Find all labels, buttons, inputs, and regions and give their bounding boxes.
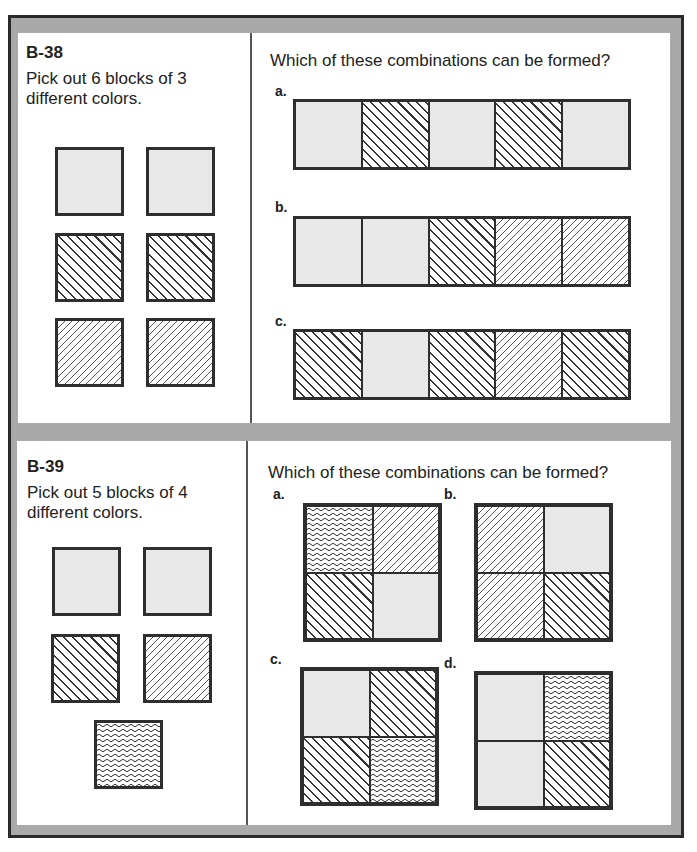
block-dot[interactable] — [146, 318, 215, 387]
option-label: a. — [273, 486, 285, 502]
cell-stripe — [361, 102, 428, 167]
cell-gray — [561, 102, 628, 167]
option-a-grid[interactable] — [303, 503, 442, 642]
question-text: Which of these combinations can be forme… — [270, 51, 610, 71]
instruction-line: Pick out 6 blocks of 3 — [26, 69, 187, 89]
block-dot[interactable] — [55, 318, 124, 387]
instruction-line: Pick out 5 blocks of 4 — [27, 483, 188, 503]
block-stripe[interactable] — [146, 233, 215, 302]
problem-instruction: Pick out 5 blocks of 4 different colors. — [27, 483, 188, 523]
block-gray[interactable] — [146, 147, 215, 216]
block-dot[interactable] — [143, 634, 212, 703]
option-label: a. — [275, 83, 287, 99]
cell-stripe — [544, 741, 611, 808]
option-b-strip[interactable] — [293, 216, 631, 287]
block-stripe[interactable] — [55, 233, 124, 302]
block-gray[interactable] — [52, 547, 121, 616]
cell-stripe — [494, 102, 561, 167]
cell-wave — [544, 674, 611, 741]
instruction-line: different colors. — [26, 89, 187, 109]
option-c-strip[interactable] — [293, 329, 631, 400]
problem-instruction: Pick out 6 blocks of 3 different colors. — [26, 69, 187, 109]
cell-gray — [428, 102, 495, 167]
cell-gray — [303, 670, 370, 737]
question-text: Which of these combinations can be forme… — [268, 463, 608, 483]
cell-gray — [361, 219, 428, 284]
option-a-strip[interactable] — [293, 99, 631, 170]
cell-dot — [477, 506, 544, 573]
cell-gray — [296, 102, 361, 167]
block-stripe[interactable] — [51, 634, 120, 703]
cell-stripe — [296, 332, 361, 397]
problem-b38-panel: B-38 Pick out 6 blocks of 3 different co… — [18, 33, 670, 423]
option-label: b. — [275, 199, 287, 215]
cell-gray — [544, 506, 611, 573]
cell-gray — [373, 573, 440, 640]
cell-wave — [370, 737, 437, 804]
column-divider — [250, 33, 252, 423]
cell-stripe — [544, 573, 611, 640]
cell-gray — [296, 219, 361, 284]
problem-title: B-38 — [26, 43, 63, 63]
option-d-grid[interactable] — [474, 671, 613, 810]
option-label: b. — [444, 486, 456, 502]
cell-gray — [361, 332, 428, 397]
block-wave[interactable] — [94, 720, 163, 789]
cell-stripe — [306, 573, 373, 640]
option-b-grid[interactable] — [474, 503, 613, 642]
cell-dot — [494, 332, 561, 397]
option-label: c. — [270, 651, 282, 667]
cell-stripe — [561, 332, 628, 397]
problem-b39-panel: B-39 Pick out 5 blocks of 4 different co… — [17, 441, 671, 825]
cell-stripe — [370, 670, 437, 737]
problem-title: B-39 — [27, 457, 64, 477]
cell-gray — [477, 674, 544, 741]
option-label: c. — [275, 313, 287, 329]
block-gray[interactable] — [143, 547, 212, 616]
cell-wave — [306, 506, 373, 573]
cell-gray — [477, 741, 544, 808]
cell-stripe — [303, 737, 370, 804]
cell-dot — [494, 219, 561, 284]
cell-dot — [477, 573, 544, 640]
column-divider — [246, 441, 248, 825]
cell-dot — [373, 506, 440, 573]
instruction-line: different colors. — [27, 503, 188, 523]
option-label: d. — [444, 655, 456, 671]
cell-stripe — [428, 332, 495, 397]
block-gray[interactable] — [55, 147, 124, 216]
cell-stripe — [428, 219, 495, 284]
option-c-grid[interactable] — [300, 667, 439, 806]
cell-dot — [561, 219, 628, 284]
